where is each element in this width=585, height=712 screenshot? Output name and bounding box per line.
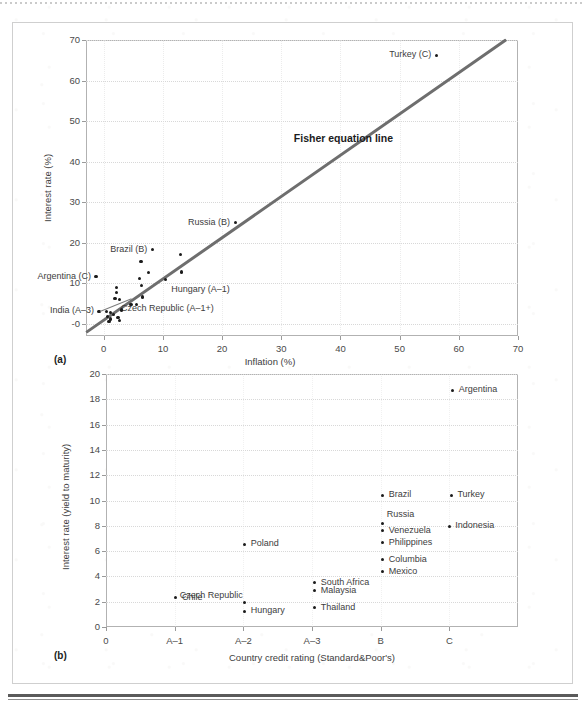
y-axis-tick bbox=[102, 425, 106, 426]
x-axis-tick bbox=[163, 336, 164, 340]
y-axis-title-b: Interest rate (yield to maturity) bbox=[60, 444, 71, 570]
x-axis-tick-label: 10 bbox=[149, 343, 177, 354]
panel-letter-b: (b) bbox=[54, 650, 67, 661]
data-point-label: Indonesia bbox=[455, 520, 494, 530]
data-point-label: Malaysia bbox=[321, 585, 357, 595]
data-point bbox=[381, 494, 384, 497]
data-point-label: Russia (B) bbox=[110, 217, 230, 227]
data-point bbox=[120, 308, 123, 311]
x-axis-tick bbox=[449, 627, 450, 631]
y-axis-tick bbox=[82, 81, 86, 82]
y-axis-tick-label: 60 bbox=[52, 75, 80, 86]
data-point bbox=[129, 303, 132, 306]
vertical-gridline bbox=[243, 374, 244, 627]
data-point bbox=[180, 270, 183, 273]
x-axis-tick bbox=[243, 627, 244, 631]
data-point bbox=[381, 522, 384, 525]
y-axis-tick-label: 14 bbox=[74, 444, 100, 455]
data-point bbox=[243, 543, 246, 546]
vertical-gridline bbox=[175, 374, 176, 627]
vertical-gridline bbox=[163, 40, 164, 336]
y-axis-tick bbox=[102, 450, 106, 451]
x-axis-tick-label: A–1 bbox=[155, 635, 195, 646]
y-axis-tick bbox=[102, 475, 106, 476]
y-axis-tick bbox=[102, 501, 106, 502]
vertical-gridline bbox=[449, 374, 450, 627]
panel-a: Interest rate (%) Inflation (%) (a) -010… bbox=[12, 22, 573, 354]
data-point bbox=[141, 295, 144, 298]
data-point-label: Hungary (A–1) bbox=[171, 284, 230, 294]
x-axis-tick bbox=[340, 336, 341, 340]
data-point-label: Philippines bbox=[389, 537, 433, 547]
x-axis-tick-label: 0 bbox=[90, 343, 118, 354]
data-point-label: Argentina (C) bbox=[0, 271, 91, 281]
y-axis-tick bbox=[102, 374, 106, 375]
x-axis-tick-label: 60 bbox=[445, 343, 473, 354]
x-axis-tick-label: 30 bbox=[267, 343, 295, 354]
y-axis-tick bbox=[102, 399, 106, 400]
y-axis-tick bbox=[102, 551, 106, 552]
gridline-horizontal bbox=[86, 324, 518, 325]
data-point-label: Columbia bbox=[389, 554, 427, 564]
gridline-horizontal bbox=[86, 202, 518, 203]
data-point-label: Russia bbox=[387, 509, 415, 519]
data-point-label: Turkey (C) bbox=[311, 49, 431, 59]
top-dotted-rule bbox=[0, 2, 585, 4]
y-axis-tick-label: 18 bbox=[74, 393, 100, 404]
gridline-horizontal bbox=[86, 40, 518, 41]
data-point bbox=[448, 525, 451, 528]
data-point bbox=[118, 319, 121, 322]
vertical-gridline bbox=[459, 40, 460, 336]
x-axis-tick bbox=[312, 627, 313, 631]
x-axis-tick bbox=[459, 336, 460, 340]
y-axis-tick-label: 0 bbox=[74, 621, 100, 632]
y-axis-tick bbox=[102, 576, 106, 577]
bottom-rule bbox=[8, 694, 578, 697]
data-point-label: Thailand bbox=[321, 602, 356, 612]
x-axis-tick-label: A–3 bbox=[292, 635, 332, 646]
y-axis-tick-label: 8 bbox=[74, 520, 100, 531]
y-axis-tick-label: 10 bbox=[74, 495, 100, 506]
y-axis-tick bbox=[82, 283, 86, 284]
data-point bbox=[105, 310, 108, 313]
x-axis-tick-label: A–2 bbox=[223, 635, 263, 646]
y-axis-tick-label: 40 bbox=[52, 156, 80, 167]
data-point-label: Hungary bbox=[251, 605, 285, 615]
x-axis-tick-label: B bbox=[361, 635, 401, 646]
data-point-label: Brazil (B) bbox=[27, 244, 147, 254]
y-axis-tick-label: 20 bbox=[74, 368, 100, 379]
panel-b: Interest rate (yield to maturity) Countr… bbox=[12, 362, 573, 684]
x-axis-title-b: Country credit rating (Standard&Poor's) bbox=[229, 652, 395, 663]
data-point bbox=[113, 297, 116, 300]
gridline-horizontal bbox=[86, 121, 518, 122]
x-axis-tick-label: 50 bbox=[386, 343, 414, 354]
x-axis-tick-label: 0 bbox=[86, 635, 126, 646]
y-axis-tick-label: 16 bbox=[74, 419, 100, 430]
data-point-label: Venezuela bbox=[389, 525, 431, 535]
x-axis-tick-label: 40 bbox=[326, 343, 354, 354]
y-axis-tick-label: 50 bbox=[52, 115, 80, 126]
plot-area-a bbox=[86, 40, 518, 336]
gridline-horizontal bbox=[86, 162, 518, 163]
data-point-label: Turkey bbox=[457, 489, 484, 499]
y-axis-tick-label: 30 bbox=[52, 196, 80, 207]
y-axis-tick-label: 70 bbox=[52, 34, 80, 45]
y-axis-tick-label: 6 bbox=[74, 545, 100, 556]
data-point bbox=[243, 610, 246, 613]
x-axis-tick-label: 20 bbox=[208, 343, 236, 354]
data-point bbox=[450, 494, 453, 497]
data-point bbox=[138, 277, 141, 280]
y-axis-tick bbox=[82, 324, 86, 325]
figure-page: Interest rate (%) Inflation (%) (a) -010… bbox=[0, 0, 585, 712]
x-axis-tick-label: 70 bbox=[504, 343, 532, 354]
data-point bbox=[243, 601, 246, 604]
vertical-gridline bbox=[340, 40, 341, 336]
y-axis-tick-label: 4 bbox=[74, 570, 100, 581]
vertical-gridline bbox=[400, 40, 401, 336]
y-axis-tick bbox=[82, 40, 86, 41]
gridline-horizontal bbox=[86, 81, 518, 82]
x-axis-tick-label: C bbox=[429, 635, 469, 646]
data-point bbox=[435, 54, 438, 57]
y-axis-tick-label: -0 bbox=[52, 318, 80, 329]
data-point-label: India (A–3) bbox=[0, 305, 94, 315]
